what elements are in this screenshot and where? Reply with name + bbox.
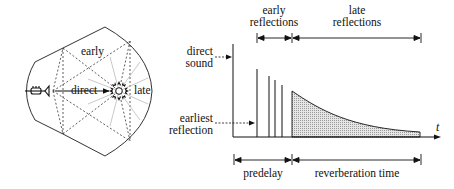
direct-label: direct [71,84,98,96]
late-reflections-label-line2: reflections [333,16,382,28]
listener-circle-icon [109,81,129,101]
late-reflections-decay-area [292,91,420,137]
room-diagram: early direct late [25,27,152,156]
direct-sound-label-line2: sound [186,57,214,69]
bottom-interval-arrows [234,154,421,165]
late-reflections-label-line1: late [349,4,366,16]
t-axis-label: t [436,120,440,134]
predelay-label: predelay [243,167,283,180]
early-reflection-impulses [257,69,282,137]
reverberation-time-label: reverberation time [315,167,400,179]
top-interval-arrows [257,33,421,43]
early-label: early [81,45,104,58]
direct-sound-label-line1: direct [187,45,214,57]
earliest-reflection-label-line2: reflection [169,124,213,136]
reverb-diagram: early direct late early reflections late… [0,0,454,189]
early-reflections-label-line2: reflections [250,16,299,28]
late-label: late [134,84,151,96]
impulse-response-chart: early reflections late reflections direc… [169,4,441,180]
trumpet-icon [25,86,49,96]
earliest-reflection-label-line1: earliest [180,112,214,124]
